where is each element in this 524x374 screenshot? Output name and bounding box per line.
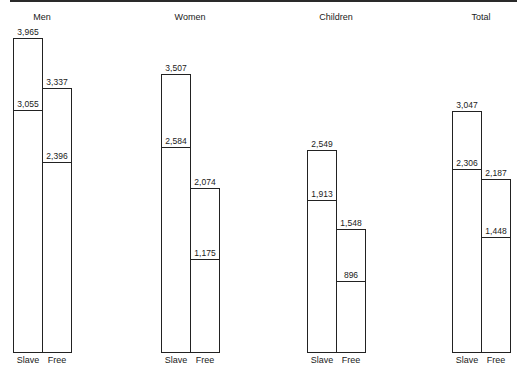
value-label: 2,187 — [476, 168, 516, 178]
bar-women-free — [190, 188, 220, 353]
bar-total-free — [481, 179, 511, 353]
value-label: 2,396 — [37, 151, 77, 161]
inner-line-men-slave — [13, 110, 43, 111]
bar-children-free — [336, 229, 366, 353]
value-label: 3,965 — [8, 27, 48, 37]
value-label: 2,074 — [185, 177, 225, 187]
inner-line-children-slave — [307, 200, 337, 201]
value-label: 3,047 — [447, 100, 487, 110]
value-label: 1,175 — [185, 248, 225, 258]
inner-line-total-free — [481, 237, 511, 238]
category-label: Free — [37, 355, 77, 365]
value-label: 3,507 — [156, 63, 196, 73]
value-label: 1,448 — [476, 226, 516, 236]
category-label: Free — [185, 355, 225, 365]
group-title-women: Women — [150, 12, 230, 22]
group-title-men: Men — [2, 12, 82, 22]
value-label: 2,584 — [156, 136, 196, 146]
top-rule — [10, 0, 517, 2]
category-label: Free — [476, 355, 516, 365]
inner-line-women-free — [190, 259, 220, 260]
group-title-children: Children — [296, 12, 376, 22]
group-title-total: Total — [441, 12, 521, 22]
inner-line-men-free — [42, 162, 72, 163]
bar-children-slave — [307, 150, 337, 353]
value-label: 896 — [331, 270, 371, 280]
value-label: 2,549 — [302, 139, 342, 149]
inner-line-children-free — [336, 281, 366, 282]
category-label: Free — [331, 355, 371, 365]
bar-women-slave — [161, 74, 191, 353]
bar-men-free — [42, 88, 72, 353]
inner-line-women-slave — [161, 147, 191, 148]
value-label: 3,337 — [37, 77, 77, 87]
value-label: 1,548 — [331, 218, 371, 228]
value-label: 1,913 — [302, 189, 342, 199]
